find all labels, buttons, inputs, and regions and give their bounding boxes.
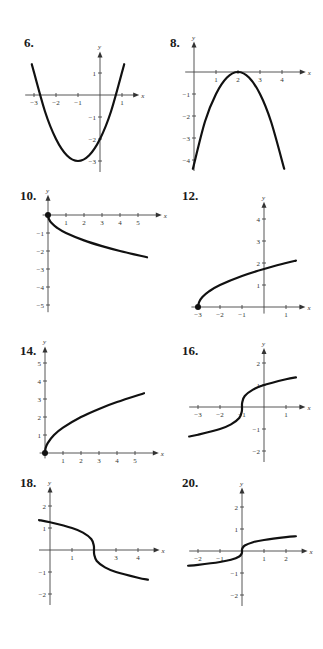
x-axis-arrow-icon (299, 305, 305, 310)
x-tick-label: 3 (100, 219, 104, 227)
x-axis-label: x (306, 304, 311, 312)
graph-label-14: 14. (20, 343, 36, 358)
graph-g16: xy−3−2−1121−1−2 (189, 340, 311, 462)
x-tick-label: −3 (194, 411, 202, 419)
y-axis-arrow-icon (240, 488, 245, 494)
y-axis-arrow-icon (43, 346, 48, 352)
y-tick-label: 2 (257, 360, 261, 368)
y-tick-label: −2 (253, 448, 261, 456)
y-axis-arrow-icon (98, 51, 103, 57)
x-tick-label: −3 (194, 311, 202, 319)
y-tick-label: −1 (231, 570, 239, 578)
x-tick-label: 1 (61, 457, 65, 465)
y-tick-label: 1 (43, 525, 47, 533)
x-tick-label: 3 (114, 554, 118, 562)
x-axis-label: x (163, 212, 168, 220)
y-tick-label: 4 (38, 378, 42, 386)
x-axis-label: x (140, 92, 145, 100)
graph-label-6: 6. (24, 35, 34, 50)
graph-g20: xy−2−11221−1−2 (188, 480, 314, 606)
y-tick-label: 4 (257, 216, 261, 224)
x-axis-label: x (309, 548, 314, 556)
graph-label-12: 12. (182, 188, 198, 203)
endpoint-dot (195, 304, 201, 310)
x-axis-label: x (161, 547, 166, 555)
y-tick-label: −4 (183, 157, 191, 165)
y-tick-label: 1 (235, 526, 239, 534)
y-tick-label: 2 (43, 503, 47, 511)
y-axis-arrow-icon (46, 195, 51, 201)
x-tick-label: 1 (70, 554, 74, 562)
y-tick-label: −1 (89, 114, 97, 122)
x-tick-label: −2 (216, 411, 224, 419)
x-tick-label: 2 (82, 219, 86, 227)
x-tick-label: 1 (120, 99, 124, 107)
graph-g18: xy13421−1−2 (39, 479, 166, 605)
x-tick-label: 4 (115, 457, 119, 465)
x-tick-label: 2 (236, 76, 240, 84)
x-tick-label: 1 (284, 311, 288, 319)
x-tick-label: 1 (284, 411, 288, 419)
y-axis-label: y (47, 479, 52, 487)
y-tick-label: 2 (235, 504, 239, 512)
graph-label-18: 18. (20, 475, 36, 490)
function-curve (45, 393, 144, 453)
x-axis-label: x (160, 450, 165, 458)
graph-g10: xy12345−1−2−3−4−5 (37, 187, 168, 312)
function-curve (193, 72, 284, 169)
x-tick-label: 5 (136, 219, 140, 227)
x-tick-label: 4 (280, 76, 284, 84)
x-tick-label: 2 (79, 457, 83, 465)
y-tick-label: −1 (37, 230, 45, 238)
y-axis-label: y (45, 187, 50, 195)
y-tick-label: −2 (183, 113, 191, 121)
y-axis-label: y (191, 34, 196, 42)
function-curve (48, 215, 147, 257)
y-tick-label: 5 (38, 360, 42, 368)
x-axis-arrow-icon (153, 451, 159, 456)
x-axis-arrow-icon (154, 548, 160, 553)
graph-label-20: 20. (182, 475, 198, 490)
y-tick-label: 1 (93, 70, 97, 78)
y-tick-label: −2 (231, 592, 239, 600)
y-axis-arrow-icon (262, 202, 267, 208)
function-curve (32, 64, 124, 161)
y-tick-label: −1 (183, 91, 191, 99)
graph-g12: xy−3−2−111234 (191, 194, 311, 319)
y-axis-label: y (261, 194, 266, 202)
y-tick-label: −2 (37, 248, 45, 256)
y-tick-label: −1 (253, 426, 261, 434)
x-axis-arrow-icon (133, 93, 139, 98)
x-tick-label: 1 (262, 555, 266, 563)
y-tick-label: −2 (39, 591, 47, 599)
y-axis-arrow-icon (192, 42, 197, 48)
graph-label-8: 8. (170, 35, 180, 50)
y-tick-label: −5 (37, 302, 45, 310)
x-tick-label: −2 (52, 99, 60, 107)
graph-g6: xy−3−2−111−1−2−3 (25, 43, 145, 172)
endpoint-dot (42, 450, 48, 456)
x-axis-arrow-icon (300, 70, 306, 75)
x-tick-label: −2 (194, 555, 202, 563)
y-tick-label: −3 (89, 158, 97, 166)
graph-g8: xy1234−1−2−3−4 (183, 34, 312, 171)
y-tick-label: 2 (257, 260, 261, 268)
graph-label-16: 16. (182, 343, 198, 358)
y-tick-label: −1 (39, 569, 47, 577)
x-tick-label: 3 (258, 76, 262, 84)
y-axis-arrow-icon (48, 487, 53, 493)
x-tick-label: 4 (118, 219, 122, 227)
x-axis-label: x (307, 69, 312, 77)
function-curve (198, 261, 296, 307)
endpoint-dot (45, 212, 51, 218)
x-tick-label: 4 (136, 554, 140, 562)
x-axis-arrow-icon (156, 213, 162, 218)
y-axis-arrow-icon (262, 348, 267, 354)
y-tick-label: 1 (38, 432, 42, 440)
graph-canvas: 6. 8. 10. 12. 14. 16. 18. 20. xy−3−2−111… (0, 0, 323, 649)
y-axis-label: y (261, 340, 266, 348)
y-tick-label: 3 (38, 396, 42, 404)
y-tick-label: 1 (257, 282, 261, 290)
x-tick-label: −2 (216, 311, 224, 319)
x-tick-label: 1 (64, 219, 68, 227)
